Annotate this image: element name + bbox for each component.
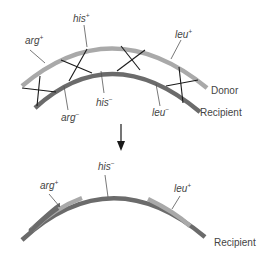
gene-label-arg-plus: arg+ <box>25 34 43 46</box>
gene-label-leu-plus: leu+ <box>175 28 192 40</box>
gene-label-arg-minus: arg− <box>61 111 79 123</box>
gene-label-his-plus: his+ <box>73 12 90 24</box>
recipient-label-top: Recipient <box>200 107 242 118</box>
recombinant-strand <box>22 198 205 240</box>
donor-label: Donor <box>211 85 239 96</box>
gene-label-bottom-leu-plus: leu+ <box>174 182 191 194</box>
down-arrow-icon <box>117 124 125 151</box>
gene-label-bottom-arg-plus: arg+ <box>40 179 58 191</box>
gene-label-his-minus: his− <box>96 96 113 108</box>
recipient-strand-top <box>35 74 200 112</box>
gene-label-bottom-his-minus: his− <box>98 160 115 172</box>
recombination-diagram: arg+ his+ leu+ arg− his− leu− Donor Reci… <box>0 0 265 259</box>
gene-label-leu-minus: leu− <box>152 106 169 118</box>
recipient-label-bottom: Recipient <box>214 237 256 248</box>
